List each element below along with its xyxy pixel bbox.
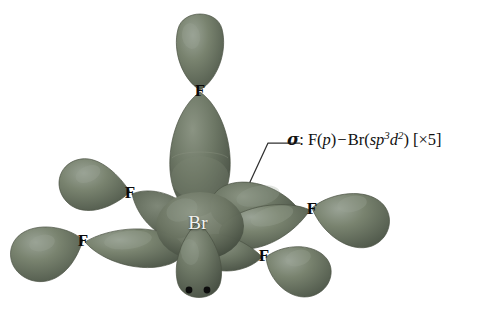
sigma-bond-annotation: σ: F(p)−Br(sp3d2) [×5] — [287, 131, 442, 149]
annotation-left-atom: F( — [308, 130, 323, 149]
annotation-left-orbital: p — [323, 130, 331, 149]
orbital-lobes-canvas — [0, 0, 500, 309]
annotation-minus: − — [336, 130, 347, 149]
lobe-f-upper-left-outer — [59, 159, 130, 211]
lobe-f-axial-top-outer — [176, 14, 223, 90]
lone-pair-dot-right — [204, 287, 211, 294]
orbital-diagram-figure: F F F F F Br σ: F(p)−Br(sp3d2) [×5] — [0, 0, 500, 309]
lobe-f-right-outer — [312, 193, 389, 248]
annotation-right-orbital-d: d — [390, 130, 398, 149]
annotation-colon: : — [299, 130, 308, 149]
annotation-right-atom: Br( — [348, 130, 370, 149]
lobe-f-lower-right-outer — [266, 247, 331, 297]
sigma-symbol: σ — [287, 130, 299, 149]
lobe-f-far-left-outer — [11, 227, 84, 282]
annotation-right-close: ) — [403, 130, 409, 149]
annotation-multiplicity: [×5] — [413, 130, 442, 149]
annotation-right-orbital-sp: sp — [370, 130, 385, 149]
lone-pair-dot-left — [186, 287, 193, 294]
